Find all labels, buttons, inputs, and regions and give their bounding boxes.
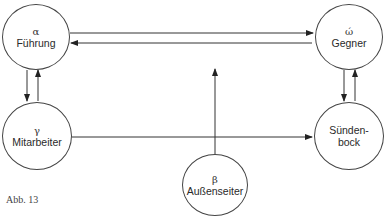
node-aussenseiter: β Außenseiter [182, 154, 248, 216]
node-fuehrung-symbol: α [33, 26, 40, 37]
node-fuehrung: α Führung [2, 4, 70, 70]
node-mitarbeiter-symbol: γ [34, 125, 40, 136]
node-gegner-label: Gegner [331, 37, 366, 49]
figure-caption: Abb. 13 [6, 194, 38, 205]
node-suendenbock-label: Sünden- bock [329, 124, 369, 148]
node-fuehrung-label: Führung [16, 37, 55, 49]
node-aussenseiter-label: Außenseiter [187, 185, 244, 197]
node-gegner-symbol: ώ [345, 26, 353, 37]
node-mitarbeiter: γ Mitarbeiter [2, 102, 72, 170]
node-aussenseiter-symbol: β [212, 174, 218, 185]
node-mitarbeiter-label: Mitarbeiter [12, 136, 62, 148]
node-suendenbock: Sünden- bock [314, 102, 384, 170]
node-gegner: ώ Gegner [315, 4, 383, 70]
